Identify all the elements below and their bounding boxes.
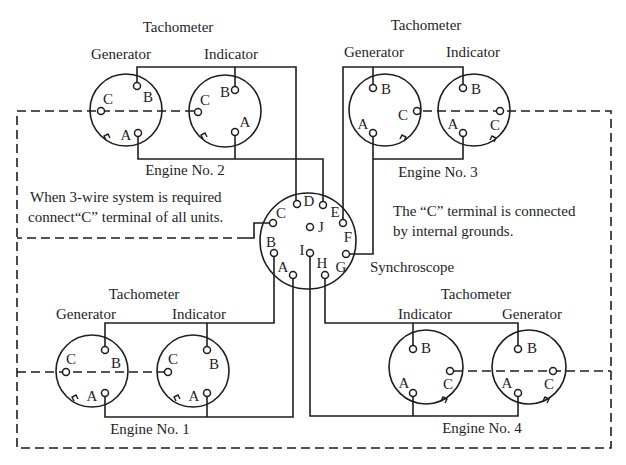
synchroscope-terminal-g-label: G	[336, 259, 347, 275]
engine-4-indicator-terminal-a-label: A	[399, 375, 410, 391]
engine-4-generator-terminal-b	[515, 346, 522, 353]
engine-2-indicator-terminal-c-label: C	[200, 92, 210, 108]
engine-2-generator-terminal-a	[135, 130, 142, 137]
engine-1-generator-terminal-b	[102, 347, 109, 354]
engine-2-label: Engine No. 2	[145, 162, 225, 178]
engine-2-generator-terminal-b	[134, 83, 141, 90]
engine-3-generator-label: Generator	[344, 44, 404, 60]
engine-3-indicator-terminal-c-label: C	[490, 117, 500, 133]
engine-4-generator-terminal-a	[515, 390, 522, 397]
engine-1-generator-terminal-a-label: A	[87, 388, 98, 404]
engine-1-indicator-terminal-c	[165, 369, 172, 376]
synchroscope-terminal-f	[340, 220, 347, 227]
synchroscope-terminal-a-label: A	[278, 259, 289, 275]
engine-1-generator-terminal-c	[63, 369, 70, 376]
engine-4-indicator-terminal-b	[410, 346, 417, 353]
engine-3-indicator-label: Indicator	[446, 44, 500, 60]
note-right-line-2: by internal grounds.	[393, 223, 513, 239]
engine-1-generator-label: Generator	[56, 306, 116, 322]
synchroscope-terminal-i-label: I	[300, 242, 305, 258]
engine-2-indicator-terminal-a-label: A	[240, 114, 251, 130]
synchroscope-terminal-c-label: C	[276, 205, 286, 221]
engine-4-tachometer-label: Tachometer	[441, 286, 512, 302]
engine-2-generator-terminal-a-label: A	[121, 127, 132, 143]
note-right-line-1: The “C” terminal is connected	[393, 203, 576, 219]
engine-1-indicator-terminal-b	[204, 347, 211, 354]
tachometer-synchroscope-wiring-diagram: Tachometer Generator Indicator C B A C B…	[0, 0, 626, 465]
synchroscope-terminal-f-label: F	[344, 229, 352, 245]
engine-4-generator-label: Generator	[502, 306, 562, 322]
engine-4-label: Engine No. 4	[442, 420, 522, 436]
engine-2-indicator-terminal-c	[195, 109, 202, 116]
engine-3-indicator-terminal-a	[460, 130, 467, 137]
engine-2-tachometer-label: Tachometer	[143, 19, 214, 35]
engine-1-indicator-terminal-c-label: C	[168, 351, 178, 367]
engine-1-indicator-label: Indicator	[172, 306, 226, 322]
engine-4-indicator-terminal-c	[447, 368, 454, 375]
engine-4-generator-terminal-c	[550, 368, 557, 375]
engine-2-generator-terminal-c-label: C	[103, 91, 113, 107]
synchroscope-terminal-g	[343, 251, 350, 258]
synchroscope-terminal-i	[307, 250, 314, 257]
engine-3-indicator-terminal-c	[497, 108, 504, 115]
engine-3-indicator-terminal-a-label: A	[448, 116, 459, 132]
synchroscope-terminal-b	[271, 250, 278, 257]
synchroscope-terminal-b-label: B	[266, 234, 276, 250]
engine-4-indicator-terminal-c-label: C	[443, 376, 453, 392]
engine-4-indicator-terminal-b-label: B	[421, 340, 431, 356]
synchroscope-terminal-h	[322, 272, 329, 279]
engine-3-label: Engine No. 3	[398, 164, 478, 180]
engine-4-generator-terminal-a-label: A	[502, 375, 513, 391]
synchroscope-terminal-j-label: J	[318, 219, 324, 235]
engine-3-tachometer-label: Tachometer	[391, 17, 462, 33]
engine-3-generator-terminal-b-label: B	[381, 81, 391, 97]
engine-3-generator-terminal-b	[370, 85, 377, 92]
engine-1-label: Engine No. 1	[110, 421, 190, 437]
engine-4-indicator-label: Indicator	[398, 306, 452, 322]
note-left-line-1: When 3-wire system is required	[30, 189, 222, 205]
engine-1-indicator-terminal-a-label: A	[189, 388, 200, 404]
engine-3-generator-terminal-a	[370, 130, 377, 137]
engine-2-generator-terminal-b-label: B	[143, 89, 153, 105]
engine-2-indicator-label: Indicator	[204, 46, 258, 62]
engine-1-generator-terminal-a	[102, 390, 109, 397]
synchroscope-label: Synchroscope	[370, 259, 454, 275]
engine-3-indicator-terminal-b	[460, 85, 467, 92]
note-left-line-2: connect“C” terminal of all units.	[28, 209, 223, 225]
synchroscope-terminal-e-label: E	[330, 204, 339, 220]
engine-1-tachometer-label: Tachometer	[109, 286, 180, 302]
engine-2-indicator-terminal-b	[232, 87, 239, 94]
synchroscope-terminal-h-label: H	[317, 255, 328, 271]
engine-2-indicator-terminal-b-label: B	[220, 84, 230, 100]
engine-3-generator-terminal-a-label: A	[358, 116, 369, 132]
engine-2-generator-terminal-c	[98, 108, 105, 115]
engine-4-indicator-terminal-a	[410, 390, 417, 397]
synchroscope-terminal-j	[307, 224, 314, 231]
engine-4-generator-terminal-c-label: C	[544, 376, 554, 392]
engine-2-indicator-terminal-a	[232, 129, 239, 136]
synchroscope-terminal-a	[290, 272, 297, 279]
engine-4-generator-terminal-b-label: B	[527, 340, 537, 356]
engine-3-indicator-terminal-b-label: B	[471, 81, 481, 97]
synchroscope-terminal-d-label: D	[304, 193, 315, 209]
engine-1-generator-terminal-b-label: B	[111, 355, 121, 371]
engine-1-indicator-terminal-a	[204, 390, 211, 397]
engine-3-generator-terminal-c-label: C	[398, 107, 408, 123]
engine-3-generator-terminal-c	[414, 108, 421, 115]
engine-2-generator-label: Generator	[91, 46, 151, 62]
engine-1-generator-terminal-c-label: C	[66, 351, 76, 367]
synchroscope-terminal-d	[294, 201, 301, 208]
engine-1-indicator-terminal-b-label: B	[209, 356, 219, 372]
synchroscope-terminal-e	[320, 202, 327, 209]
